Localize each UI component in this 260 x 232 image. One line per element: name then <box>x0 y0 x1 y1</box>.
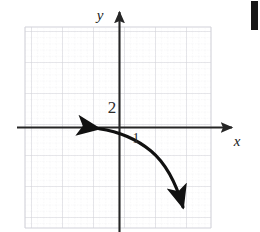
y-axis-tick-label-2: 2 <box>108 98 117 117</box>
page-edge-glyph-artifact <box>251 1 258 30</box>
y-axis-label: y <box>95 7 104 23</box>
x-axis-tick-label-1: 1 <box>133 131 140 146</box>
x-axis-label: x <box>233 133 241 149</box>
coordinate-plane-svg: y x 2 1 <box>0 0 260 232</box>
graph-figure: y x 2 1 <box>0 0 260 232</box>
